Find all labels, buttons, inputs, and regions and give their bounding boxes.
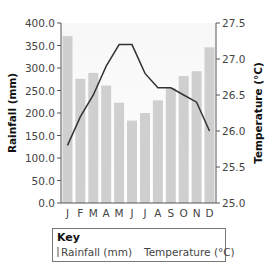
month-label: O <box>180 207 188 219</box>
rainfall-tick-label: 100.0 <box>25 152 55 164</box>
rainfall-swatch-icon <box>57 247 59 257</box>
rainfall-bar <box>205 47 215 203</box>
rainfall-tick-label: 150.0 <box>25 130 55 142</box>
month-label: M <box>115 207 124 219</box>
temperature-tick-label: 27.5 <box>222 17 245 29</box>
legend-temperature-label: Temperature (°C) <box>144 245 235 259</box>
temperature-tick-label: 25.5 <box>222 161 245 173</box>
temperature-tick-label: 26.5 <box>222 89 245 101</box>
rainfall-tick-label: 250.0 <box>25 85 55 97</box>
month-label: A <box>154 207 162 219</box>
month-label: M <box>89 207 98 219</box>
legend-row: Rainfall (mm) Temperature (°C) <box>57 245 221 259</box>
month-label: S <box>167 207 174 219</box>
month-label: J <box>142 207 146 219</box>
rainfall-tick-label: 200.0 <box>25 107 55 119</box>
rainfall-bar <box>88 73 98 203</box>
temperature-axis-title: Temperature (°C) <box>252 62 264 164</box>
rainfall-tick-label: 50.0 <box>32 175 55 187</box>
rainfall-axis-title: Rainfall (mm) <box>6 73 18 153</box>
chart-legend: Key Rainfall (mm) Temperature (°C) <box>52 228 226 262</box>
rainfall-bar <box>166 88 176 203</box>
month-label: J <box>65 207 69 219</box>
temperature-tick-label: 27.0 <box>222 53 245 65</box>
rainfall-bar <box>192 71 202 203</box>
rainfall-bar <box>114 103 124 203</box>
rainfall-bar <box>153 100 163 203</box>
rainfall-tick-label: 300.0 <box>25 62 55 74</box>
temperature-tick-label: 26.0 <box>222 125 245 137</box>
temperature-tick-label: 25.0 <box>222 197 245 209</box>
rainfall-bar <box>101 86 111 203</box>
month-label: N <box>193 207 201 219</box>
temperature-axis: 25.025.526.026.527.027.5 <box>216 17 245 209</box>
rainfall-bar <box>127 121 137 203</box>
rainfall-bar <box>140 113 150 203</box>
rainfall-bar <box>63 36 73 203</box>
month-label: D <box>205 207 213 219</box>
legend-title: Key <box>57 231 221 245</box>
month-label: F <box>77 207 83 219</box>
month-label: A <box>103 207 111 219</box>
rainfall-bar <box>75 79 85 203</box>
rainfall-tick-label: 350.0 <box>25 40 55 52</box>
legend-rainfall-label: Rainfall (mm) <box>61 245 132 259</box>
rainfall-tick-label: 0.0 <box>38 197 55 209</box>
month-label: J <box>129 207 133 219</box>
month-labels: JFMAMJJASOND <box>65 207 214 219</box>
rainfall-tick-label: 400.0 <box>25 17 55 29</box>
